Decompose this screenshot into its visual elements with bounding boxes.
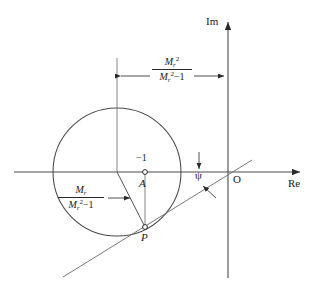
center-point-marker [143,170,148,175]
tangent-line [63,160,252,277]
dimension-radius-denominator: Mr2−1 [58,197,104,212]
imaginary-axis-label: Im [206,16,218,27]
dimension-horizontal-denominator: Mr2−1 [152,69,192,84]
dim-r-den-base: M [68,199,76,210]
dim-h-num-sup: 2 [176,55,180,63]
origin-label: O [233,174,241,185]
dimension-radius-numerator: Mr [58,185,104,197]
dim-h-den-base: M [159,71,167,82]
point-a-label: A [139,178,146,189]
dimension-horizontal-fraction: Mr2 Mr2−1 [152,56,192,85]
real-axis-label: Re [288,178,300,189]
psi-arrow-bottom [203,186,216,198]
diagram-svg [0,0,326,284]
psi-angle-label: ψ [195,170,202,181]
dim-h-num-base: M [165,56,173,67]
dimension-radius-fraction: Mr Mr2−1 [58,185,104,213]
figure-canvas: Im Re O −1 A P ψ Mr2 Mr2−1 Mr Mr2−1 [0,0,326,284]
minus-one-label: −1 [136,153,147,163]
dim-h-den-tail: −1 [174,71,185,82]
dim-r-num-base: M [75,184,83,195]
dim-r-num-sub: r [84,189,87,197]
point-p-label: P [141,232,148,243]
dim-r-den-tail: −1 [83,199,94,210]
dimension-horizontal-numerator: Mr2 [152,56,192,69]
tangent-point-marker [143,225,148,230]
